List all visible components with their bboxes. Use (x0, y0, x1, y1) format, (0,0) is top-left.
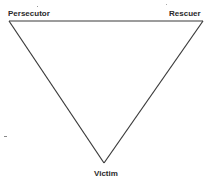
node-label-rescuer: Rescuer (169, 10, 201, 18)
speck (166, 4, 167, 5)
drama-triangle-diagram: Persecutor Rescuer Victim (0, 0, 209, 187)
edge-rescuer-victim (104, 21, 203, 163)
speck (37, 6, 38, 7)
node-label-victim: Victim (94, 170, 118, 178)
speck (4, 136, 7, 137)
triangle-shape (0, 0, 209, 187)
edge-victim-persecutor (9, 21, 104, 163)
node-label-persecutor: Persecutor (8, 10, 50, 18)
